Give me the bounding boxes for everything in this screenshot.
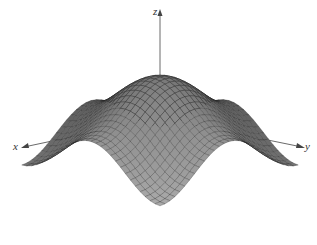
z-axis-arrowhead-icon: [158, 9, 163, 16]
x-axis-arrowhead-icon: [21, 143, 29, 148]
z-axis-label: z: [153, 6, 157, 17]
surface-plot-figure: z x y: [0, 0, 317, 245]
y-axis-label: y: [305, 141, 310, 152]
y-axis-arrowhead-icon: [296, 143, 305, 148]
surface-plot-canvas: [0, 0, 317, 245]
surface-mesh: [22, 75, 298, 206]
x-axis-label: x: [13, 141, 18, 152]
